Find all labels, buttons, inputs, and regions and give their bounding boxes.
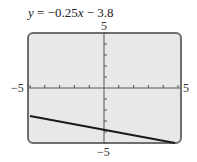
plot-area <box>0 0 197 162</box>
